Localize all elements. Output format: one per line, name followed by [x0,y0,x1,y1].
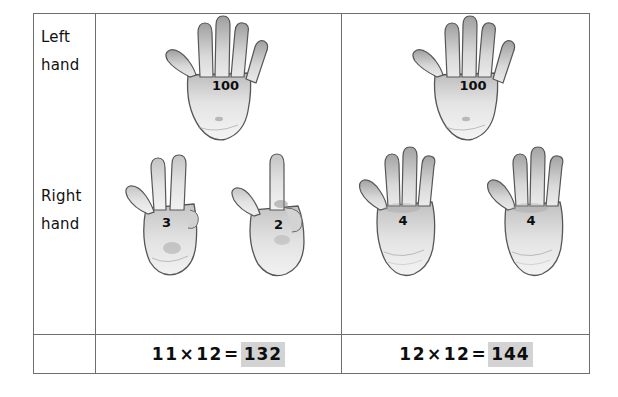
hand-two-fingers: 2 [226,152,318,280]
row-label-right-hand: Right hand [34,182,95,238]
equation-operator: × [426,344,444,364]
hand-four-fingers: 4 [482,144,578,284]
cell-right-hand-column-11x12: 3 [96,152,341,334]
row-label-left-hand: Left hand [34,23,95,79]
equation-product-highlight: 132 [241,342,286,367]
cell-left-hand-column-11x12: 100 [96,15,341,155]
cell-equation-column-12x12: 12×12=144 [342,335,590,373]
hand-open-five-fingers: 100 [160,15,278,147]
row-label-left-hand-line1: Left [41,23,95,51]
hand-open-five-fingers: 100 [407,15,525,147]
equation-factor-b: 12 [196,344,223,364]
equation-factor-a: 12 [399,344,426,364]
equation-product-highlight: 144 [488,342,533,367]
row-label-right-hand-line1: Right [41,182,95,210]
cell-equation-column-11x12: 11×12=132 [96,335,341,373]
equation-factor-b: 12 [444,344,471,364]
cell-right-hand-column-12x12: 4 [342,144,590,334]
hand-four-fingers: 4 [354,144,450,284]
equation-11x12: 11×12=132 [152,344,285,364]
row-label-right-hand-line2: hand [41,210,95,238]
row-label-left-hand-line2: hand [41,51,95,79]
hand-three-fingers: 3 [120,152,212,280]
equation-equals-sign: = [470,344,488,364]
equation-operator: × [179,344,197,364]
equation-factor-a: 11 [152,344,179,364]
finger-multiplication-table: Left hand Right hand [33,13,590,374]
equation-12x12: 12×12=144 [399,344,532,364]
cell-left-hand-column-12x12: 100 [342,15,590,155]
equation-equals-sign: = [223,344,241,364]
